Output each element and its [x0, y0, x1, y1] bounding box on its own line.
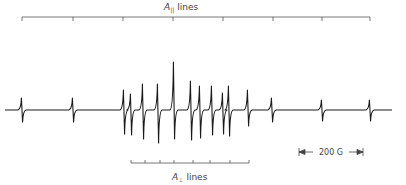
perpendicular-lines-label: A⊥lines [171, 172, 208, 183]
spectrum-trace [5, 62, 392, 143]
parallel-lines-ruler [22, 17, 370, 21]
parallel-lines-label: A||lines [163, 2, 198, 14]
epr-spectrum-figure: A||lines A⊥lines 200 G [0, 0, 406, 185]
perpendicular-lines-ruler [131, 160, 249, 163]
scale-bar-label: 200 G [319, 148, 343, 157]
